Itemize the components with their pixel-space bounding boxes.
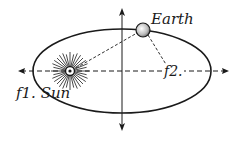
arrow-right-icon: [222, 68, 229, 74]
earth-icon: [136, 23, 150, 37]
major-axis: [18, 68, 229, 74]
earth-label: Earth: [151, 12, 194, 27]
earth-f2-line: [148, 35, 167, 66]
second-focus-label: f2.: [163, 64, 184, 78]
arrow-left-icon: [18, 68, 25, 74]
orbit-diagram-svg: [0, 0, 239, 146]
sun-focus-label: f1. Sun: [16, 86, 70, 101]
sun-earth-line: [76, 33, 137, 68]
orbit-diagram: Earth f1. Sun f2.: [0, 0, 239, 146]
